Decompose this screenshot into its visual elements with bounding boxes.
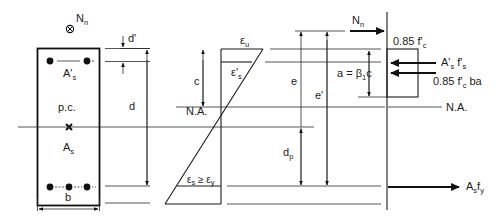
reference-lines: [18, 31, 442, 204]
tension-bars: [47, 184, 96, 191]
d-prime-label: d': [128, 32, 136, 44]
c-label: c: [194, 75, 200, 87]
dp-label: dp: [283, 146, 293, 161]
load-point-icon: [66, 25, 73, 32]
cross-section: Nn A's p.c. As: [38, 12, 100, 211]
concrete-force-label: 0.85 f'c ba: [433, 75, 483, 90]
width-label: b: [65, 191, 71, 203]
rc-section-diagram: Nn A's p.c. As: [0, 0, 501, 219]
stress-block-depth-label: a = β1c: [337, 67, 372, 82]
e-prime-label: e': [315, 89, 323, 101]
compression-steel-label: A's: [63, 67, 76, 82]
ultimate-strain-label: εu: [240, 34, 249, 49]
e-label: e: [291, 75, 297, 87]
strain-neutral-axis-label: N.A.: [186, 105, 207, 117]
tension-force-label: Asfy: [466, 180, 484, 195]
compression-steel-force-label: A's f's: [441, 56, 466, 71]
stress-block-label: 0.85 f'c: [393, 35, 427, 50]
plastic-centroid-label: p.c.: [58, 101, 76, 113]
tension-steel-label: As: [63, 141, 74, 156]
section-load-label: Nn: [76, 12, 88, 27]
compression-bars: [47, 58, 96, 65]
compression-steel-strain-label: ε's: [231, 66, 242, 81]
d-label: d: [129, 100, 135, 112]
tension-steel-strain-label: εs ≥ εy: [187, 174, 215, 187]
force-nn-label: Nn: [352, 14, 364, 29]
force-neutral-axis-label: N.A.: [446, 101, 467, 113]
